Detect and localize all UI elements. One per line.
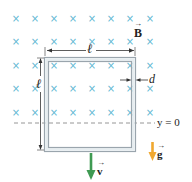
field-into-page-mark: × [69, 13, 77, 24]
field-into-page-mark: × [107, 107, 115, 118]
field-into-page-mark: × [126, 13, 134, 24]
field-into-page-mark: × [12, 36, 20, 47]
field-into-page-mark: × [50, 36, 58, 47]
gravity-arrow [149, 142, 157, 161]
top-side-length-label: ℓ [87, 42, 92, 55]
field-into-page-mark: × [88, 13, 96, 24]
field-into-page-mark: × [69, 107, 77, 118]
falling-loop-diagram: ×××××××××××××××××××××××××××××××××××××××× [0, 0, 192, 182]
field-into-page-mark: × [12, 83, 20, 94]
field-into-page-mark: × [31, 13, 39, 24]
field-into-page-mark: × [88, 107, 96, 118]
velocity-arrow [87, 153, 96, 180]
field-into-page-mark: × [146, 60, 154, 71]
field-into-page-mark: × [31, 107, 39, 118]
field-into-page-mark: × [12, 107, 20, 118]
field-into-page-mark: × [146, 107, 154, 118]
field-into-page-mark: × [107, 36, 115, 47]
gravity-label: g [157, 149, 163, 160]
field-into-page-mark: × [31, 36, 39, 47]
field-into-page-mark: × [88, 83, 96, 94]
field-into-page-mark: × [107, 13, 115, 24]
field-into-page-mark: × [50, 13, 58, 24]
field-into-page-mark: × [69, 83, 77, 94]
field-into-page-mark: × [69, 36, 77, 47]
square-conducting-loop [45, 58, 136, 152]
field-into-page-mark: × [31, 60, 39, 71]
field-into-page-mark: × [12, 60, 20, 71]
magnetic-field-label: B [134, 27, 142, 39]
field-into-page-mark: × [50, 107, 58, 118]
thickness-label: d [149, 73, 155, 85]
field-into-page-mark: × [126, 36, 134, 47]
y-zero-label: y = 0 [157, 117, 180, 128]
velocity-label: v [97, 166, 103, 177]
field-into-page-mark: × [50, 83, 58, 94]
field-into-page-mark: × [146, 36, 154, 47]
field-into-page-mark: × [146, 13, 154, 24]
field-into-page-mark: × [12, 13, 20, 24]
field-into-page-mark: × [107, 83, 115, 94]
left-side-length-label: ℓ [36, 77, 41, 90]
left-side-length-dimension [37, 58, 44, 150]
